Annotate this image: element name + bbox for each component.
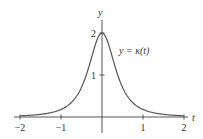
curve-annotation: y = κ(t) — [118, 45, 150, 57]
x-tick-label: −1 — [56, 122, 67, 133]
chart: −2−112 12 t y y = κ(t) — [0, 0, 203, 139]
y-tick-label: 1 — [91, 70, 96, 81]
x-tick-label: 1 — [141, 122, 146, 133]
x-tick-label: −2 — [15, 122, 26, 133]
x-tick-label: 2 — [182, 122, 187, 133]
y-tick-label: 2 — [91, 28, 96, 39]
x-axis-label: t — [192, 112, 195, 123]
y-axis-label: y — [97, 7, 103, 18]
